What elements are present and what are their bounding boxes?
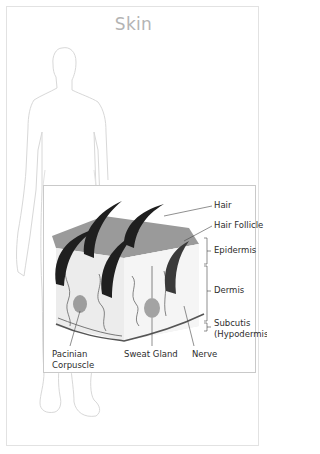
pacinian-corpuscle (73, 295, 87, 313)
label-corpuscle: Corpuscle (52, 360, 94, 371)
label-subcutis: Subcutis (214, 318, 250, 329)
label-epidermis: Epidermis (214, 245, 256, 256)
label-nerve: Nerve (192, 349, 217, 360)
skin-cross-section-inset: Hair Hair Follicle Epidermis Dermis Subc… (43, 185, 256, 373)
label-pacinian: Pacinian (52, 349, 87, 360)
skin-layers-illustration (44, 186, 255, 372)
label-hair: Hair (214, 200, 231, 211)
label-dermis: Dermis (214, 285, 244, 296)
label-hair-follicle: Hair Follicle (214, 220, 263, 231)
sweat-gland (144, 298, 160, 318)
label-sweat-gland: Sweat Gland (124, 349, 178, 360)
label-hypodermis: (Hypodermis) (214, 329, 267, 340)
